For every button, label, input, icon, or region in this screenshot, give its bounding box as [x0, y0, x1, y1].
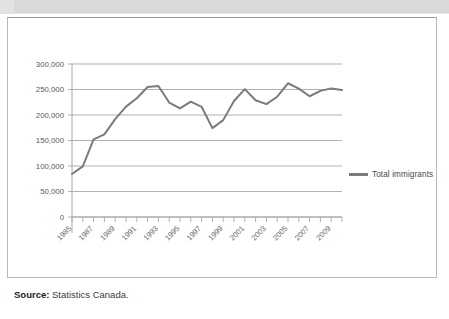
page-top-band: [0, 0, 449, 14]
x-axis-tick-label: 1991: [120, 224, 138, 242]
y-axis-tick-label: 100,000: [36, 162, 65, 171]
chart-plot-container: 300,000250,000200,000150,000100,00050,00…: [8, 18, 438, 279]
x-axis-tick-label: 1997: [185, 224, 203, 242]
legend-label-total-immigrants: Total immigrants: [372, 170, 433, 179]
x-axis-tick-label: 1995: [163, 224, 181, 242]
source-note: Source: Statistics Canada.: [14, 289, 129, 300]
source-value: Statistics Canada.: [52, 289, 129, 300]
y-axis-tick-label: 50,000: [40, 187, 65, 196]
x-axis-tick-label: 1987: [77, 224, 95, 242]
y-axis-tick-label: 250,000: [36, 85, 65, 94]
x-axis-tick-label: 2005: [271, 224, 289, 242]
x-axis-tick-label: 2009: [314, 224, 332, 242]
y-axis-tick-label: 150,000: [36, 136, 65, 145]
y-axis-tick-label: 0: [60, 213, 65, 222]
series-line-0: [72, 83, 342, 174]
chart-figure-box: 300,000250,000200,000150,000100,00050,00…: [7, 17, 437, 278]
x-axis-tick-label: 1993: [141, 224, 159, 242]
x-axis-tick-label: 2001: [228, 224, 246, 242]
y-axis-tick-label: 200,000: [36, 111, 65, 120]
x-axis-tick-label: 1999: [206, 224, 224, 242]
x-axis-tick-label: 2007: [293, 224, 311, 242]
figure-page: 300,000250,000200,000150,000100,00050,00…: [0, 0, 449, 319]
x-axis-tick-label: 2003: [249, 224, 267, 242]
legend-swatch-total-immigrants: [349, 173, 368, 176]
y-axis-tick-label: 300,000: [36, 60, 65, 69]
x-axis-tick-label: 1985: [55, 224, 73, 242]
source-label: Source:: [14, 289, 49, 300]
line-chart: 300,000250,000200,000150,000100,00050,00…: [8, 18, 438, 279]
page-top-band-inner: [14, 0, 449, 13]
x-axis-tick-label: 1989: [98, 224, 116, 242]
chart-legend: Total immigrants: [349, 170, 433, 179]
